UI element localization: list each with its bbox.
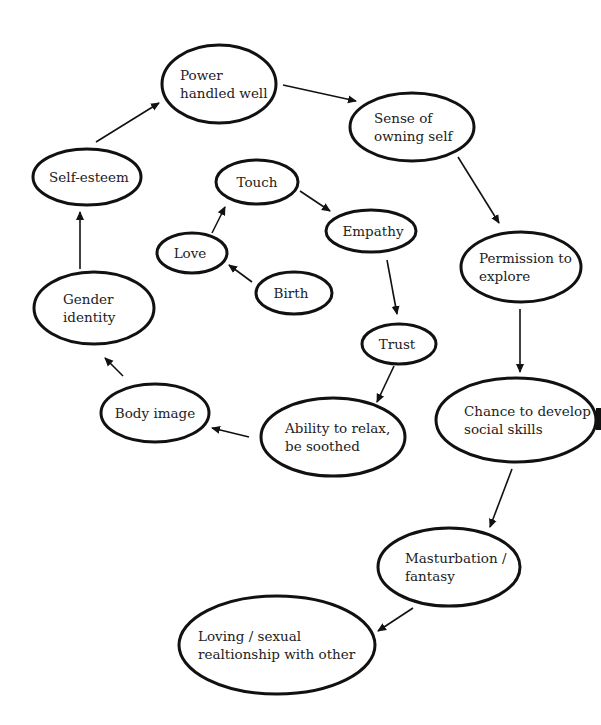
node-ellipse: [350, 93, 474, 161]
node-label: Power: [180, 67, 223, 83]
node-label: social skills: [464, 421, 543, 437]
node-ellipse: [179, 596, 375, 694]
node-bodyimage: Body image: [101, 384, 209, 442]
node-label: be soothed: [285, 438, 360, 454]
node-label: explore: [479, 268, 530, 284]
node-ellipse: [378, 528, 520, 606]
node-label: Love: [174, 245, 207, 261]
arrow-touch-to-empathy: [300, 191, 330, 211]
node-label: Self-esteem: [49, 169, 129, 185]
arrow-empathy-to-trust: [387, 260, 397, 314]
node-label: Permission to: [479, 250, 572, 266]
node-label: identity: [63, 309, 116, 325]
node-ellipse: [436, 378, 596, 462]
node-label: owning self: [374, 128, 454, 144]
node-label: fantasy: [405, 568, 455, 584]
node-ellipse: [261, 398, 405, 476]
node-label: Birth: [274, 285, 309, 301]
node-love: Love: [157, 233, 227, 273]
node-label: Trust: [379, 336, 416, 352]
node-loving: Loving / sexualrealtionship with other: [179, 596, 375, 694]
node-ellipse: [461, 232, 581, 302]
node-ellipse: [162, 45, 276, 123]
node-relax: Ability to relax,be soothed: [261, 398, 405, 476]
arrow-bodyimage-to-gender: [105, 358, 123, 376]
node-gender: Genderidentity: [34, 272, 154, 344]
node-label: Empathy: [342, 223, 403, 239]
scan-edge-mark: [596, 408, 601, 430]
node-label: Chance to develop: [464, 403, 591, 419]
node-sense: Sense ofowning self: [350, 93, 474, 161]
node-label: handled well: [180, 85, 268, 101]
node-touch: Touch: [216, 160, 298, 204]
node-label: Body image: [115, 405, 195, 421]
node-label: Ability to relax,: [284, 420, 390, 436]
node-selfesteem: Self-esteem: [33, 149, 141, 205]
node-label: Loving / sexual: [198, 628, 301, 644]
node-label: Gender: [63, 291, 114, 307]
arrow-trust-to-relax: [377, 366, 394, 402]
diagram-canvas: Powerhandled wellSense ofowning selfSelf…: [0, 0, 601, 725]
node-label: Touch: [236, 174, 277, 190]
arrow-selfesteem-to-power: [96, 103, 159, 142]
node-label: Masturbation /: [405, 550, 507, 566]
node-ellipse: [34, 272, 154, 344]
arrow-sense-to-permission: [458, 157, 499, 223]
arrow-masturbation-to-loving: [378, 608, 413, 631]
node-birth: Birth: [256, 272, 332, 314]
node-label: Sense of: [374, 110, 433, 126]
arrow-social-to-masturbation: [490, 469, 512, 527]
arrow-birth-to-love: [229, 265, 252, 282]
node-label: realtionship with other: [198, 646, 356, 662]
node-masturbation: Masturbation /fantasy: [378, 528, 520, 606]
arrow-relax-to-bodyimage: [212, 428, 249, 437]
arrow-power-to-sense: [283, 85, 356, 101]
node-permission: Permission toexplore: [461, 232, 581, 302]
arrow-love-to-touch: [212, 207, 225, 233]
node-empathy: Empathy: [326, 210, 416, 252]
node-power: Powerhandled well: [162, 45, 276, 123]
node-social: Chance to developsocial skills: [436, 378, 596, 462]
node-trust: Trust: [362, 324, 436, 364]
